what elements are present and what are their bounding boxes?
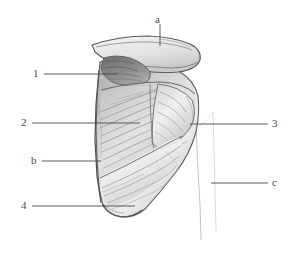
label-c: c <box>272 177 277 188</box>
drawing-body <box>92 36 216 240</box>
label-3: 3 <box>272 118 278 129</box>
label-2: 2 <box>21 117 27 128</box>
posterior-arm-contour <box>196 112 216 240</box>
anatomy-figure: a 1 2 3 b c 4 <box>0 0 294 255</box>
label-a: a <box>155 14 160 25</box>
label-4: 4 <box>21 200 27 211</box>
label-1: 1 <box>33 68 39 79</box>
label-b: b <box>31 155 37 166</box>
anatomy-drawing <box>0 0 294 255</box>
